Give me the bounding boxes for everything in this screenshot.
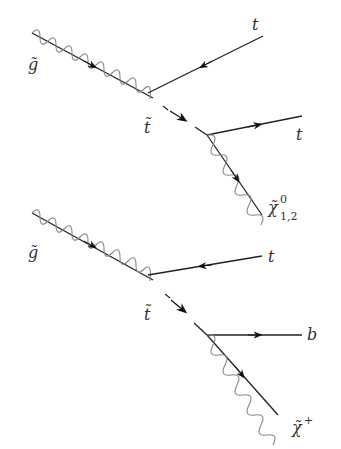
bottom-out-label: b: [307, 325, 317, 344]
neutralino-sup: 0: [280, 193, 287, 206]
chargino-line: [207, 335, 278, 445]
top-line: [148, 256, 262, 275]
stop-propagator: [163, 106, 207, 135]
gluino-label: g̃: [28, 55, 38, 74]
feynman-diagrams: g̃ t t̃ t χ̃ 0 1,2 g̃: [0, 0, 341, 449]
chargino-label: χ̃: [291, 418, 303, 437]
neutralino-sub: 1,2: [280, 210, 298, 223]
stop-label: t̃: [144, 117, 152, 137]
gluino-line: [32, 210, 153, 281]
top-out-line: [207, 116, 302, 135]
diagram-top: g̃ t t̃ t χ̃ 0 1,2: [28, 15, 303, 225]
diagram-bottom: g̃ t t̃ b χ̃ +: [28, 210, 317, 445]
stop-propagator: [165, 294, 207, 335]
neutralino-line: [207, 135, 263, 225]
gluino-line: [32, 30, 153, 99]
top-line: [148, 36, 263, 93]
top-in-label: t: [252, 15, 259, 34]
stop-label: t̃: [144, 304, 152, 324]
gluino-label: g̃: [28, 243, 38, 262]
neutralino-label: χ̃: [267, 198, 279, 217]
chargino-sup: +: [304, 414, 313, 427]
top-in-label: t: [268, 247, 275, 266]
top-out-label: t: [296, 125, 303, 144]
